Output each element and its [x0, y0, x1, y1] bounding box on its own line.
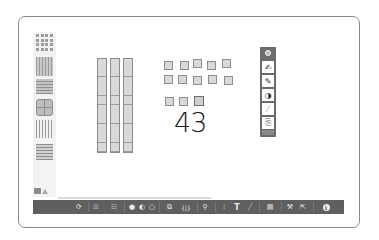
note-button[interactable]: ⎘	[262, 117, 274, 129]
separator	[281, 202, 282, 212]
unit-block-selected[interactable]	[194, 96, 204, 106]
unit-block[interactable]	[180, 61, 189, 70]
trash-button[interactable]: ▤	[265, 200, 275, 214]
fill-medium-button[interactable]: ◐	[137, 200, 147, 214]
pencil-icon: ╱	[248, 203, 252, 211]
separator	[215, 202, 216, 212]
pen-fine-icon: ✍	[265, 63, 272, 72]
unit-block[interactable]	[164, 75, 173, 84]
separator	[313, 202, 314, 212]
handwritten-number: 43	[174, 107, 206, 138]
info-icon: ℹ	[323, 204, 330, 211]
duplicate-button[interactable]: ⧉	[163, 200, 175, 214]
fill-dark-icon: ●	[129, 203, 135, 211]
fill-dark-button[interactable]: ●	[127, 200, 137, 214]
eraser-icon: ⁄	[267, 105, 268, 114]
tools-icon: ⚒	[287, 203, 293, 211]
duplicate-icon: ⧉	[167, 203, 172, 211]
bottom-toolbar: ⟳ ⊞ ⊟ ● ◐ ○ ⧉ {|} ⚲ ⁝ T ╱ ▤ ⚒ ⇱	[33, 200, 344, 214]
ten-rod[interactable]	[123, 58, 133, 153]
grid-large-icon: ⊟	[111, 203, 117, 211]
grid-small-button[interactable]: ⊞	[90, 200, 102, 214]
group-button[interactable]: {|}	[178, 200, 194, 214]
eraser-button[interactable]: ⁄	[262, 103, 274, 115]
unit-block[interactable]	[164, 61, 173, 70]
group-icon: {|}	[181, 204, 191, 211]
ten-rod[interactable]	[97, 58, 107, 153]
block-palette-sidebar	[33, 32, 56, 197]
separator	[124, 202, 125, 212]
trash-icon: ▤	[267, 203, 274, 211]
hundred-flats-icon[interactable]	[36, 79, 53, 94]
note-icon: ⎘	[265, 118, 271, 128]
zoom-icon: ⚲	[202, 203, 207, 211]
text-button[interactable]: T	[232, 200, 242, 214]
unit-block[interactable]	[179, 97, 188, 106]
color-icon: ◑	[265, 91, 272, 100]
separator	[197, 202, 198, 212]
tools-button[interactable]: ⚒	[285, 200, 295, 214]
unit-block[interactable]	[193, 59, 202, 68]
pen-button[interactable]: ✎	[262, 75, 274, 87]
pen-icon: ✎	[265, 77, 272, 86]
columns-icon: ⁝	[223, 203, 225, 211]
reset-button[interactable]: ⟳	[73, 200, 85, 214]
unit-block[interactable]	[208, 75, 217, 84]
info-button[interactable]: ℹ	[321, 200, 331, 214]
separator	[259, 202, 260, 212]
unit-block[interactable]	[207, 61, 216, 70]
fill-light-icon: ○	[149, 203, 155, 211]
fill-light-button[interactable]: ○	[147, 200, 157, 214]
thousand-cube-icon[interactable]	[36, 99, 53, 116]
grid-small-icon: ⊞	[93, 203, 99, 211]
reset-icon: ⟳	[76, 203, 82, 211]
pen-fine-button[interactable]: ✍	[262, 61, 274, 73]
fill-medium-icon: ◐	[139, 203, 145, 211]
rods-outline-icon[interactable]	[36, 120, 53, 138]
unit-blocks-icon[interactable]	[36, 34, 53, 53]
cube-icon[interactable]	[34, 188, 41, 194]
pencil-button[interactable]: ╱	[245, 200, 255, 214]
unit-block[interactable]	[165, 97, 174, 106]
settings-button[interactable]	[260, 47, 276, 59]
unit-block[interactable]	[178, 75, 187, 84]
horizontal-scrollbar[interactable]	[58, 197, 211, 199]
gear-icon	[265, 50, 271, 56]
grid-large-button[interactable]: ⊟	[108, 200, 120, 214]
export-button[interactable]: ⇱	[298, 200, 308, 214]
ten-rods-icon[interactable]	[36, 57, 53, 76]
unit-block[interactable]	[224, 76, 233, 85]
triangle-icon[interactable]	[42, 189, 48, 194]
unit-block[interactable]	[222, 59, 231, 68]
drawing-tools-palette: ✍ ✎ ◑ ⁄ ⎘	[260, 47, 276, 137]
text-icon: T	[234, 203, 239, 212]
zoom-button[interactable]: ⚲	[199, 200, 211, 214]
palette-drag-handle[interactable]	[262, 130, 274, 135]
columns-button[interactable]: ⁝	[219, 200, 229, 214]
separator	[88, 202, 89, 212]
flats-outline-icon[interactable]	[36, 144, 53, 160]
color-button[interactable]: ◑	[262, 89, 274, 101]
ten-rod[interactable]	[110, 58, 120, 153]
sidebar-bottom-controls	[34, 188, 48, 194]
unit-block[interactable]	[193, 76, 202, 85]
separator	[159, 202, 160, 212]
export-icon: ⇱	[300, 203, 306, 211]
